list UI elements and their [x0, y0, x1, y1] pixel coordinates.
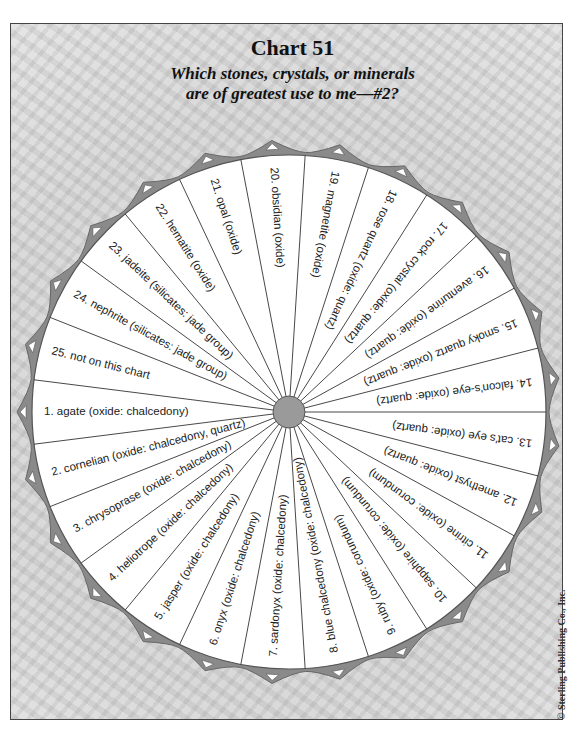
pendulum-wheel: 1. agate (oxide: chalcedony)2. cornelian…	[0, 0, 585, 746]
segment-label: 1. agate (oxide: chalcedony)	[44, 405, 189, 417]
center-hub	[273, 396, 305, 428]
copyright-notice: © Sterling Publishing Co., Inc.	[556, 589, 567, 720]
